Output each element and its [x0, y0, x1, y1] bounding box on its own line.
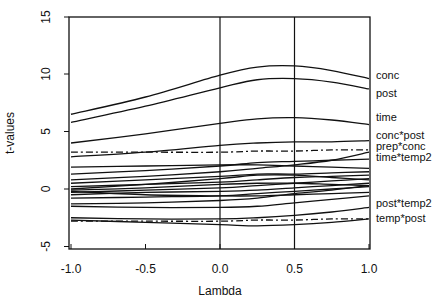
x-tick-label: 0.0 [212, 262, 229, 276]
series-label-post-x-temp2: post*temp2 [376, 197, 432, 209]
series-label-conc: conc [376, 69, 400, 81]
y-tick-label: 0 [39, 185, 53, 192]
y-axis-title: t-values [3, 112, 17, 154]
y-axis: -5051015 [39, 10, 69, 252]
y-tick-label: 15 [39, 10, 53, 24]
x-tick-label: 1.0 [361, 262, 378, 276]
x-tick-label: 0.5 [286, 262, 303, 276]
x-tick-label: -1.0 [61, 262, 82, 276]
legend-direct-labels: concposttimeconc*postprep*conctime*temp2… [376, 69, 432, 224]
y-tick-label: -5 [39, 241, 53, 252]
series-label-time-x-temp2: time*temp2 [376, 151, 432, 163]
series-label-temp-x-post: temp*post [376, 212, 426, 224]
series-label-post: post [376, 87, 397, 99]
x-axis-title: Lambda [198, 284, 242, 298]
series-label-time: time [376, 111, 397, 123]
reference-lines [220, 17, 295, 249]
y-tick-label: 10 [39, 67, 53, 81]
chart: -1.0-0.50.00.51.0 -5051015 concposttimec… [0, 0, 445, 302]
y-tick-label: 5 [39, 128, 53, 135]
x-tick-label: -0.5 [135, 262, 156, 276]
